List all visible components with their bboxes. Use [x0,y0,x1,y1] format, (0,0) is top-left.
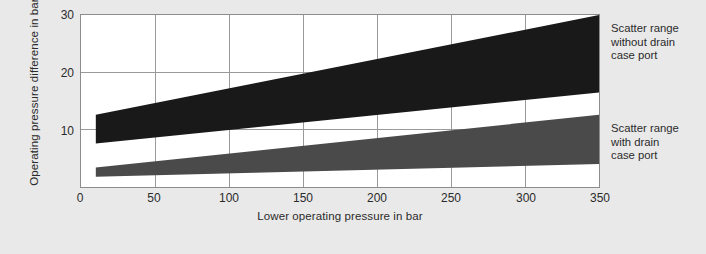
x-tick-50: 50 [134,192,174,204]
legend-line-1: Scatter range [611,122,706,136]
x-tick-350: 350 [580,192,620,204]
caption-strip-cropped [0,246,706,254]
y-tick-10: 10 [46,125,74,137]
legend-label-without-drain-case-port: Scatter range without drain case port [611,22,706,63]
plot-svg [81,15,599,187]
legend-line-1: Scatter range [611,22,706,36]
legend-line-3: case port [611,49,706,63]
legend-line-2: with drain [611,136,706,150]
x-tick-250: 250 [431,192,471,204]
chart-figure: Operating pressure difference in bar 30 … [0,0,706,254]
x-tick-200: 200 [357,192,397,204]
x-axis-tick-labels: 0 50 100 150 200 250 300 350 [80,192,600,208]
legend-line-2: without drain [611,36,706,50]
y-axis-title: Operating pressure difference in bar [28,0,40,192]
x-axis-title: Lower operating pressure in bar [80,210,600,222]
x-tick-300: 300 [506,192,546,204]
legend-label-with-drain-case-port: Scatter range with drain case port [611,122,706,163]
x-tick-0: 0 [60,192,100,204]
x-tick-150: 150 [283,192,323,204]
y-tick-30: 30 [46,9,74,21]
y-tick-20: 20 [46,67,74,79]
plot-area [80,14,600,188]
y-axis-tick-labels: 30 20 10 [44,0,74,254]
legend-line-3: case port [611,149,706,163]
x-tick-100: 100 [209,192,249,204]
